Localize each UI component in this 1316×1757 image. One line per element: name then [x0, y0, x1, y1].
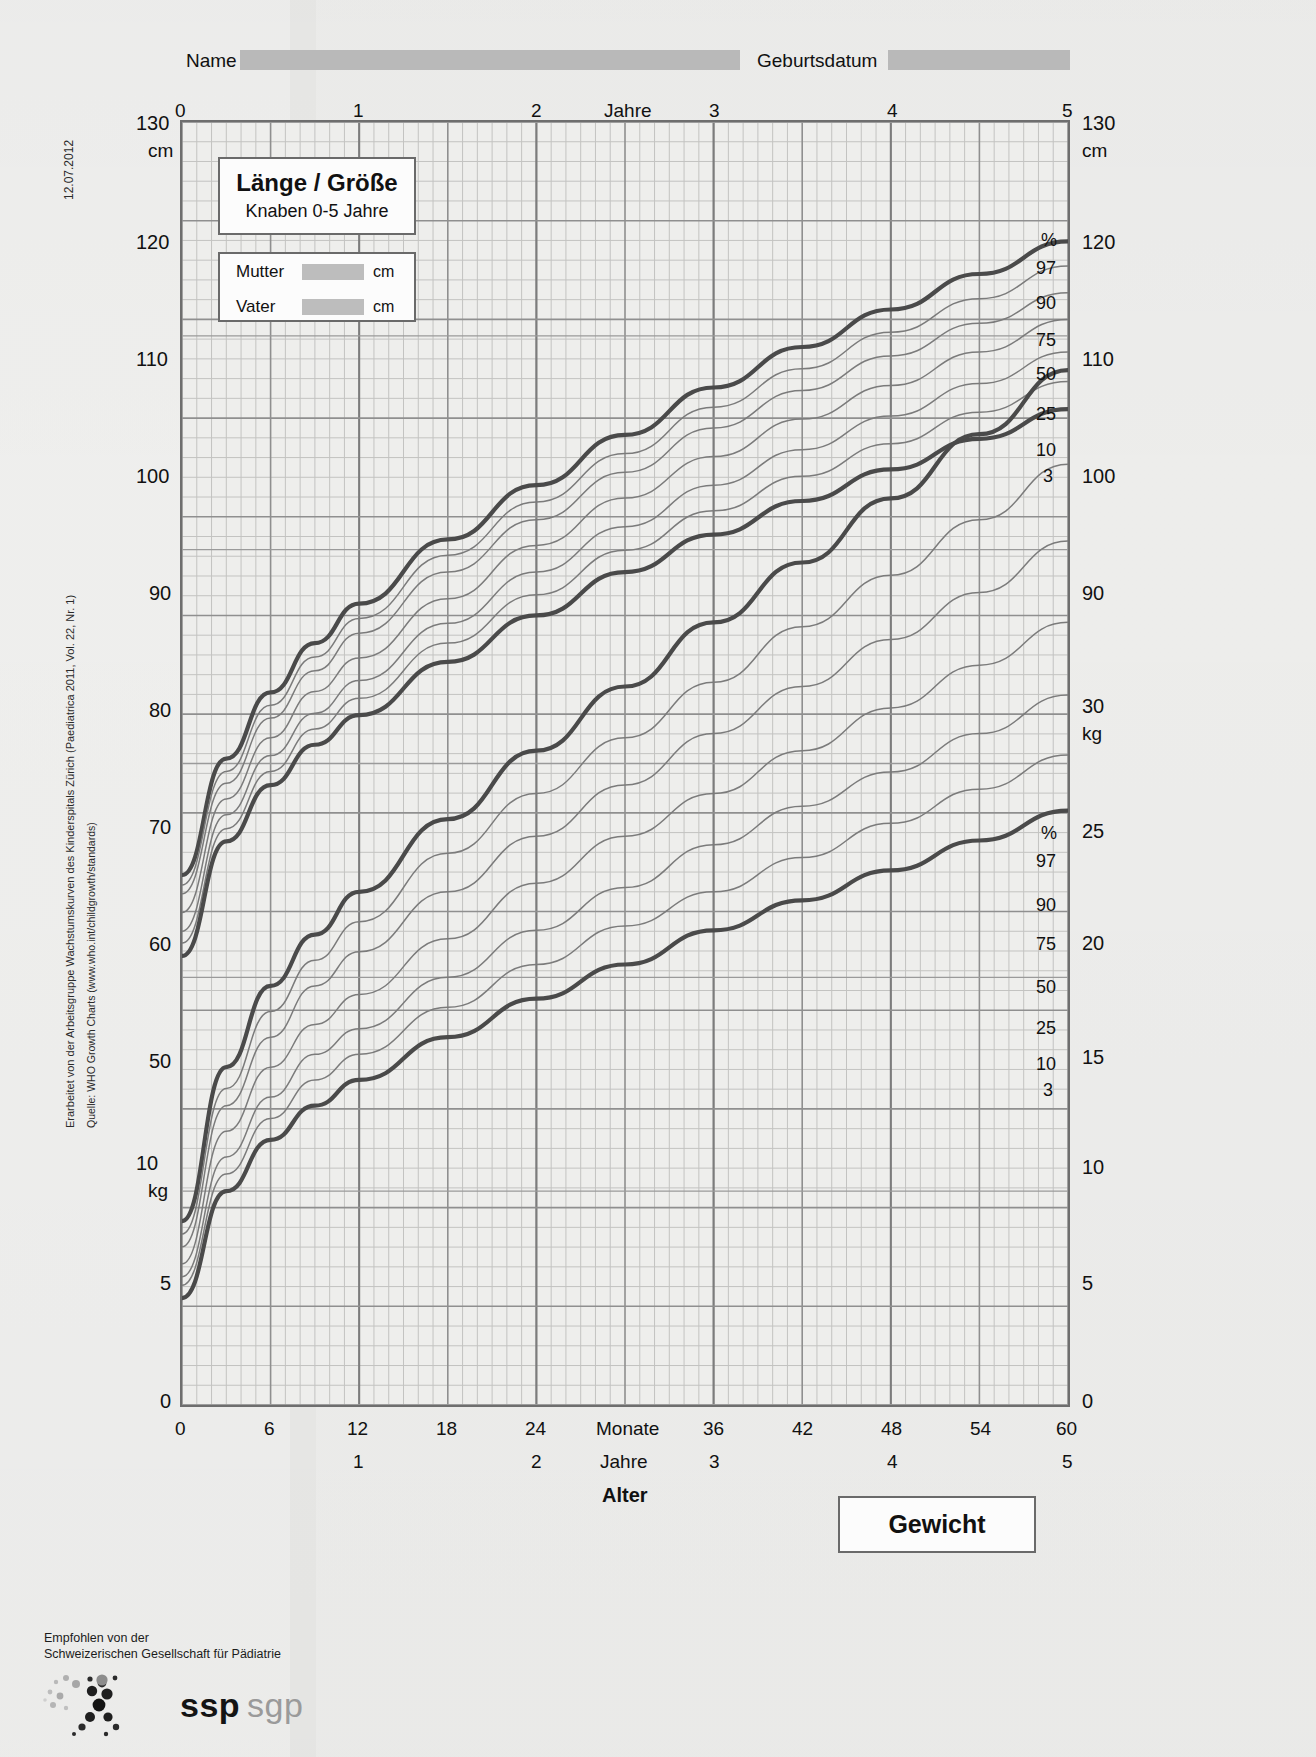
name-label: Name [186, 50, 237, 72]
bottom-year-4: 4 [887, 1451, 898, 1473]
birthdate-label: Geburtsdatum [757, 50, 877, 72]
left-height-unit: cm [148, 140, 173, 162]
revision-date: 12.07.2012 [62, 140, 76, 200]
right-weight-tick-20: 20 [1082, 932, 1104, 955]
height-percentile-90: 90 [1036, 293, 1056, 314]
footer-recommendation: Empfohlen von der Schweizerischen Gesell… [44, 1630, 281, 1662]
bottom-months-label: Monate [596, 1418, 659, 1440]
right-weight-unit: kg [1082, 723, 1102, 745]
left-weight-tick-0: 0 [160, 1390, 171, 1413]
right-height-tick-120: 120 [1082, 231, 1115, 254]
bottom-year-3: 3 [709, 1451, 720, 1473]
x-axis-title: Alter [602, 1484, 648, 1507]
left-height-tick-110: 110 [136, 348, 168, 371]
bottom-year-1: 1 [353, 1451, 364, 1473]
chart-title: Länge / Größe [220, 169, 414, 197]
credit-text: Erarbeitet von der Arbeitsgruppe Wachstu… [64, 595, 76, 1128]
left-height-tick-50: 50 [149, 1050, 171, 1073]
left-height-tick-80: 80 [149, 699, 171, 722]
height-percentile-75: 75 [1036, 330, 1056, 351]
bottom-month-42: 42 [792, 1418, 813, 1440]
top-tick-5: 5 [1062, 100, 1073, 122]
bottom-month-48: 48 [881, 1418, 902, 1440]
height-percentile-10: 10 [1036, 440, 1056, 461]
bottom-month-54: 54 [970, 1418, 991, 1440]
right-height-tick-110: 110 [1082, 348, 1114, 371]
weight-percentile-50: 50 [1036, 977, 1056, 998]
right-weight-tick-25: 25 [1082, 820, 1104, 843]
top-tick-1: 1 [353, 100, 364, 122]
top-axis-label: Jahre [604, 100, 652, 122]
bottom-month-6: 6 [264, 1418, 275, 1440]
top-tick-3: 3 [709, 100, 720, 122]
left-weight-unit: kg [148, 1180, 168, 1202]
bottom-year-2: 2 [531, 1451, 542, 1473]
bottom-years-label: Jahre [600, 1451, 648, 1473]
bottom-month-24: 24 [525, 1418, 546, 1440]
right-weight-tick-15: 15 [1082, 1046, 1104, 1069]
weight-percentile-3: 3 [1043, 1080, 1053, 1101]
bottom-month-60: 60 [1056, 1418, 1077, 1440]
top-tick-2: 2 [531, 100, 542, 122]
height-percentile-3: 3 [1043, 466, 1053, 487]
logo-ssp-text: ssp [180, 1686, 240, 1725]
footer-line-1: Empfohlen von der [44, 1630, 281, 1646]
weight-percentile-90: 90 [1036, 895, 1056, 916]
weight-title-box: Gewicht [838, 1496, 1036, 1553]
right-height-tick-90: 90 [1082, 582, 1104, 605]
parent-height-box: Mutter cm Vater cm [218, 252, 416, 322]
mother-label: Mutter [236, 262, 302, 282]
footer-line-2: Schweizerischen Gesellschaft für Pädiatr… [44, 1646, 281, 1662]
right-weight-tick-30: 30 [1082, 695, 1104, 718]
weight-percent-symbol: % [1041, 823, 1057, 844]
bottom-month-0: 0 [175, 1418, 186, 1440]
left-height-tick-120: 120 [136, 231, 169, 254]
left-weight-tick-10: 10 [136, 1152, 158, 1175]
mother-height-input[interactable] [302, 264, 364, 280]
bottom-year-5: 5 [1062, 1451, 1073, 1473]
left-height-tick-130: 130 [136, 112, 169, 135]
weight-percentile-10: 10 [1036, 1054, 1056, 1075]
top-tick-4: 4 [887, 100, 898, 122]
chart-subtitle: Knaben 0-5 Jahre [220, 201, 414, 222]
height-percentile-25: 25 [1036, 404, 1056, 425]
weight-percentile-75: 75 [1036, 934, 1056, 955]
bottom-month-18: 18 [436, 1418, 457, 1440]
left-weight-tick-5: 5 [160, 1272, 171, 1295]
bottom-month-36: 36 [703, 1418, 724, 1440]
growth-chart-page: Name Geburtsdatum 12.07.2012 Erarbeitet … [0, 0, 1316, 1757]
weight-percentile-25: 25 [1036, 1018, 1056, 1039]
height-percentile-50: 50 [1036, 364, 1056, 385]
left-height-tick-60: 60 [149, 933, 171, 956]
right-height-unit: cm [1082, 140, 1107, 162]
bottom-month-12: 12 [347, 1418, 368, 1440]
source-text: Quelle: WHO Growth Charts (www.who.int/c… [85, 822, 97, 1128]
top-tick-0: 0 [175, 100, 186, 122]
weight-percentile-97: 97 [1036, 851, 1056, 872]
left-height-tick-90: 90 [149, 582, 171, 605]
right-weight-tick-10: 10 [1082, 1156, 1104, 1179]
ssp-sgp-logo: ssp sgp [40, 1672, 300, 1744]
weight-title: Gewicht [840, 1498, 1034, 1551]
right-weight-tick-5: 5 [1082, 1272, 1093, 1295]
logo-dots-icon [40, 1672, 175, 1744]
father-height-input[interactable] [302, 299, 364, 315]
left-height-tick-70: 70 [149, 816, 171, 839]
father-label: Vater [236, 297, 302, 317]
mother-row: Mutter cm [220, 254, 414, 289]
right-weight-tick-0: 0 [1082, 1390, 1093, 1413]
height-percent-symbol: % [1041, 230, 1057, 251]
right-height-tick-100: 100 [1082, 465, 1115, 488]
logo-sgp-text: sgp [247, 1686, 303, 1725]
chart-title-box: Länge / Größe Knaben 0-5 Jahre [218, 157, 416, 235]
mother-unit: cm [373, 263, 394, 281]
birthdate-input[interactable] [888, 50, 1070, 70]
name-input[interactable] [240, 50, 740, 70]
father-unit: cm [373, 298, 394, 316]
height-percentile-97: 97 [1036, 258, 1056, 279]
father-row: Vater cm [220, 289, 414, 324]
left-height-tick-100: 100 [136, 465, 169, 488]
right-height-tick-130: 130 [1082, 112, 1115, 135]
